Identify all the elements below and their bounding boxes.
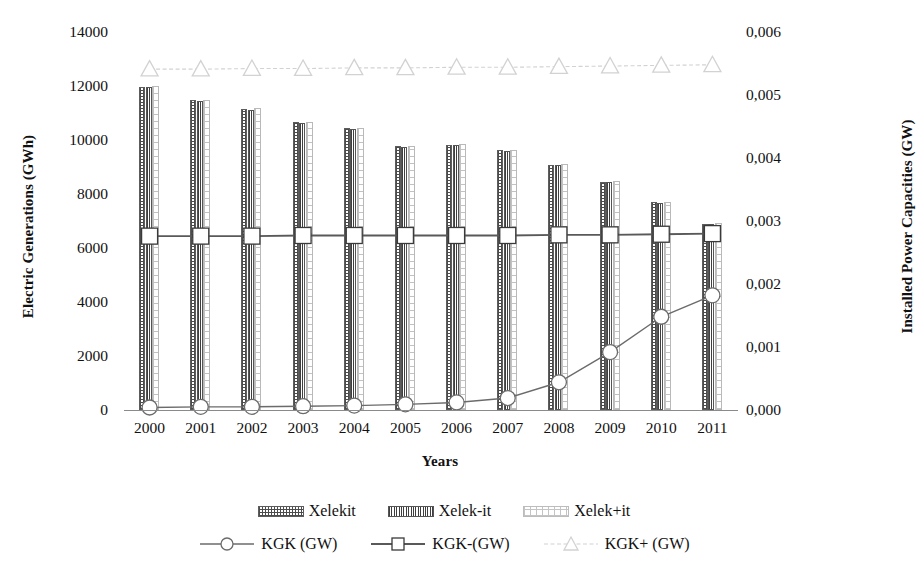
right-tick-label: 0,006	[746, 24, 816, 40]
legend-row-lines: KGK (GW)KGK-(GW)KGK+ (GW)	[124, 530, 764, 558]
marker-circle-2011	[705, 288, 720, 303]
left-tick-label: 12000	[38, 78, 108, 94]
left-tick-label: 14000	[38, 24, 108, 40]
line-series-KGK-GW	[142, 226, 721, 245]
marker-circle-2002	[244, 399, 259, 414]
legend-item-Xelekit[interactable]: Xelekit	[258, 502, 356, 520]
marker-square-2005	[397, 227, 413, 243]
marker-circle-2007	[500, 391, 515, 406]
legend-label: Xelek+it	[574, 502, 630, 520]
legend-label: KGK+ (GW)	[605, 535, 690, 553]
marker-triangle-2001	[192, 61, 209, 76]
marker-triangle-2009	[602, 58, 619, 73]
x-axis-baseline	[124, 410, 738, 411]
left-axis-ticks: 02000400060008000100001200014000	[38, 0, 108, 440]
marker-square-2003	[295, 227, 311, 243]
legend-item-Xelek-it[interactable]: Xelek-it	[388, 502, 491, 520]
marker-triangle-2008	[550, 58, 567, 73]
left-tick-label: 4000	[38, 294, 108, 310]
vertical-line-hatch-swatch	[388, 506, 434, 517]
right-tick-label: 0,001	[746, 339, 816, 355]
marker-circle-2000	[142, 400, 157, 415]
legend-item-KGK+GW[interactable]: KGK+ (GW)	[542, 535, 690, 553]
legend-label: KGK (GW)	[261, 535, 337, 553]
left-tick-label: 6000	[38, 240, 108, 256]
x-axis-title: Years	[360, 453, 520, 470]
circle-marker	[198, 535, 256, 553]
left-tick-label: 10000	[38, 132, 108, 148]
legend-label: KGK-(GW)	[432, 535, 509, 553]
legend-row-bars: XelekitXelek-itXelek+it	[124, 497, 764, 525]
line-series-KGKGW	[142, 288, 720, 415]
marker-circle-2006	[449, 395, 464, 410]
right-tick-label: 0,004	[746, 150, 816, 166]
marker-square-2009	[602, 227, 618, 243]
left-tick-label: 0	[38, 402, 108, 418]
marker-triangle-2006	[448, 59, 465, 74]
marker-square-2006	[449, 227, 465, 243]
right-tick-label: 0,005	[746, 87, 816, 103]
marker-triangle-2004	[346, 59, 363, 74]
legend-item-Xelek+it[interactable]: Xelek+it	[523, 502, 630, 520]
marker-triangle-2005	[397, 59, 414, 74]
marker-circle-2009	[603, 345, 618, 360]
marker-triangle-2000	[141, 61, 158, 76]
right-axis-ticks: 0,0000,0010,0020,0030,0040,0050,006	[746, 0, 816, 440]
marker-square-2004	[346, 227, 362, 243]
chart-legend: XelekitXelek-itXelek+it KGK (GW)KGK-(GW)…	[124, 497, 764, 567]
marker-square-2011	[704, 226, 720, 242]
square-marker	[369, 535, 427, 553]
marker-triangle-2007	[499, 59, 516, 74]
line-path	[150, 234, 713, 237]
marker-triangle-2011	[704, 56, 721, 71]
marker-square-2008	[551, 227, 567, 243]
legend-item-KGKGW[interactable]: KGK (GW)	[198, 535, 337, 553]
marker-triangle-2002	[243, 60, 260, 75]
open-grid-swatch	[523, 506, 569, 517]
right-tick-label: 0,000	[746, 402, 816, 418]
left-tick-label: 8000	[38, 186, 108, 202]
line-series-group	[124, 32, 738, 410]
legend-label: Xelekit	[309, 502, 356, 520]
marker-square-2000	[142, 228, 158, 244]
marker-triangle-2003	[295, 60, 312, 75]
marker-circle-2001	[193, 399, 208, 414]
line-series-KGK+GW	[141, 56, 721, 76]
legend-label: Xelek-it	[439, 502, 491, 520]
legend-item-KGK-GW[interactable]: KGK-(GW)	[369, 535, 509, 553]
marker-square-2010	[653, 226, 669, 242]
marker-circle-2008	[551, 375, 566, 390]
marker-circle-2003	[296, 399, 311, 414]
marker-circle-2010	[654, 309, 669, 324]
plot-area	[124, 32, 738, 410]
line-path	[150, 65, 713, 69]
right-axis-title: Installed Power Capacities (GW)	[899, 77, 916, 377]
line-path	[150, 295, 713, 407]
left-tick-label: 2000	[38, 348, 108, 364]
right-tick-label: 0,003	[746, 213, 816, 229]
triangle-marker	[542, 535, 600, 553]
right-tick-label: 0,002	[746, 276, 816, 292]
chart-figure: Electric Generations (GWh) Installed Pow…	[0, 0, 924, 583]
x-tick-label-2011: 2011	[682, 420, 742, 436]
marker-square-2002	[244, 228, 260, 244]
dense-dot-hatch-swatch	[258, 506, 304, 517]
marker-triangle-2010	[653, 57, 670, 72]
left-axis-title: Electric Generations (GWh)	[20, 77, 37, 377]
marker-square-2001	[193, 228, 209, 244]
marker-square-2007	[500, 227, 516, 243]
